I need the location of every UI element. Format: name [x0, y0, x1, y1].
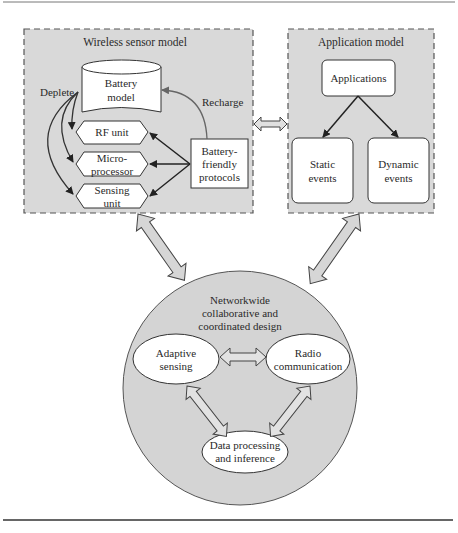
radio-communication-node: Radio communication — [266, 334, 350, 384]
sensing-unit-node: Sensing unit — [76, 184, 148, 209]
battery-model-node: Battery model — [82, 60, 161, 112]
networkwide-design-circle: Networkwide collaborative and coordinate… — [123, 271, 357, 505]
sensing-unit-label-2: unit — [103, 197, 120, 209]
dynamic-events-label-1: Dynamic — [378, 158, 418, 170]
static-events-label-1: Static — [310, 158, 335, 170]
radio-communication-label-1: Radio — [295, 347, 322, 359]
static-events-label-2: events — [308, 172, 336, 184]
radio-communication-label-2: communication — [274, 360, 343, 372]
adaptive-sensing-label-1: Adaptive — [156, 347, 196, 359]
dynamic-events-label-2: events — [384, 172, 412, 184]
rf-unit-node: RF unit — [76, 121, 148, 144]
application-to-network-double-arrow — [301, 208, 368, 290]
deplete-label: Deplete — [40, 86, 74, 98]
wireless-to-network-double-arrow — [129, 208, 193, 287]
battery-label-1: Battery — [105, 77, 138, 89]
battery-label-2: model — [107, 91, 135, 103]
diagram-canvas: Wireless sensor model Battery model Depl… — [0, 0, 458, 533]
application-model-panel: Application model Applications Static ev… — [288, 29, 434, 213]
microprocessor-label-1: Micro- — [97, 152, 128, 164]
data-processing-node: Data processing and inference — [202, 431, 288, 473]
microprocessor-node: Micro- processor — [76, 152, 148, 177]
network-title-2: collaborative and — [202, 307, 279, 319]
network-title-1: Networkwide — [210, 294, 270, 306]
data-processing-label-2: and inference — [215, 452, 275, 464]
network-title-3: coordinated design — [198, 320, 282, 332]
panels-link-double-arrow — [254, 117, 287, 131]
adaptive-sensing-node: Adaptive sensing — [133, 334, 219, 384]
protocols-label-3: protocols — [199, 171, 240, 183]
adaptive-sensing-label-2: sensing — [160, 360, 194, 372]
battery-friendly-protocols-node: Battery- friendly protocols — [191, 139, 248, 188]
static-events-node: Static events — [292, 138, 353, 203]
applications-node: Applications — [322, 60, 395, 96]
sensing-unit-label-1: Sensing — [95, 184, 130, 196]
applications-label: Applications — [330, 72, 386, 84]
dynamic-events-node: Dynamic events — [368, 138, 429, 203]
microprocessor-label-2: processor — [91, 165, 133, 177]
data-processing-label-1: Data processing — [210, 439, 281, 451]
recharge-label: Recharge — [202, 96, 243, 108]
protocols-label-1: Battery- — [201, 145, 237, 157]
protocols-label-2: friendly — [202, 158, 237, 170]
wireless-sensor-model-panel: Wireless sensor model Battery model Depl… — [24, 29, 253, 213]
wireless-model-title: Wireless sensor model — [83, 36, 187, 48]
application-model-title: Application model — [318, 36, 404, 49]
rf-unit-label: RF unit — [95, 126, 128, 138]
